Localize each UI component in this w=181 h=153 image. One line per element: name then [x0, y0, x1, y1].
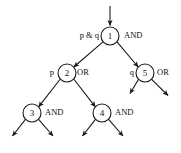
- node-5-left-label: q: [130, 67, 135, 77]
- node-3-number: 3: [30, 108, 35, 118]
- dangling-arrow-4-left: [83, 119, 96, 136]
- node-2-right-label: OR: [77, 67, 89, 77]
- edge-1-to-5: [117, 42, 138, 67]
- node-5-number: 5: [143, 68, 148, 78]
- dangling-arrow-4-right: [108, 119, 123, 136]
- node-3-right-label: AND: [45, 107, 63, 117]
- node-3[interactable]: 3 AND: [23, 104, 63, 122]
- node-4-right-label: AND: [115, 107, 133, 117]
- edge-2-to-3: [39, 79, 61, 107]
- dangling-arrow-3-right: [38, 119, 53, 136]
- node-1-right-label: AND: [124, 30, 142, 40]
- node-2[interactable]: 2 p OR: [50, 64, 89, 82]
- node-1[interactable]: 1 p & q AND: [80, 27, 143, 45]
- node-4[interactable]: 4 AND: [93, 104, 133, 122]
- node-2-left-label: p: [50, 67, 54, 77]
- and-or-graph-diagram: 1 p & q AND 2 p OR 5 q OR 3 AND 4 AN: [0, 0, 181, 153]
- dangling-arrow-5-left: [130, 79, 139, 93]
- node-1-left-label: p & q: [80, 30, 100, 40]
- node-5-right-label: OR: [157, 67, 169, 77]
- edge-1-to-2: [74, 42, 103, 67]
- edge-2-to-4: [74, 79, 96, 107]
- node-4-number: 4: [100, 108, 105, 118]
- node-2-number: 2: [65, 68, 70, 78]
- graph-canvas: 1 p & q AND 2 p OR 5 q OR 3 AND 4 AN: [0, 0, 181, 153]
- node-5[interactable]: 5 q OR: [130, 64, 169, 82]
- dangling-arrow-5-right: [151, 79, 168, 95]
- node-1-number: 1: [108, 31, 113, 41]
- dangling-arrow-3-left: [13, 119, 26, 136]
